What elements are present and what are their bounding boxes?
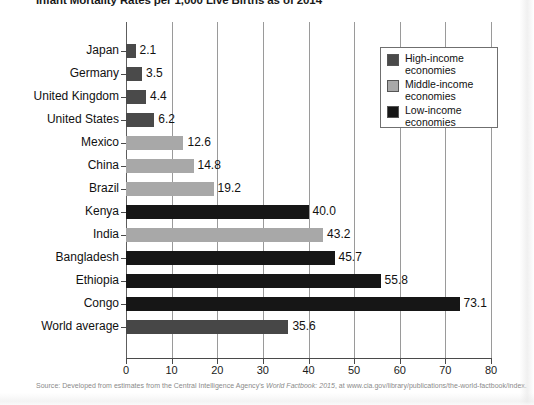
category-label-united-kingdom: United Kingdom — [34, 89, 119, 103]
legend-swatch-high-income-icon — [387, 54, 399, 66]
bar-row: China14.8 — [0, 155, 534, 178]
infant-mortality-bar-chart-figure: Infant Mortality Rates per 1,000 Live Bi… — [0, 0, 534, 405]
legend-swatch-middle-income-icon — [387, 80, 399, 92]
legend: High-income economies Middle-income econ… — [380, 47, 498, 128]
bar-value-japan: 2.1 — [140, 43, 157, 57]
category-label-mexico: Mexico — [81, 135, 119, 149]
source-note: Source: Developed from estimates from th… — [36, 382, 527, 389]
page-title: Infant Mortality Rates per 1,000 Live Bi… — [36, 0, 322, 6]
bar-brazil — [126, 182, 214, 196]
bar-row: Mexico12.6 — [0, 132, 534, 155]
category-label-bangladesh: Bangladesh — [56, 250, 119, 264]
bar-united-states — [126, 113, 154, 127]
bar-row: World average35.6 — [0, 316, 534, 339]
category-label-brazil: Brazil — [89, 181, 119, 195]
x-tick-label-60: 60 — [380, 364, 420, 376]
bar-value-congo: 73.1 — [464, 296, 487, 310]
bar-value-mexico: 12.6 — [187, 135, 210, 149]
legend-label-line2: economies — [405, 116, 456, 128]
legend-label-line2: economies — [405, 64, 456, 76]
category-label-ethiopia: Ethiopia — [76, 273, 119, 287]
bar-value-india: 43.2 — [327, 227, 350, 241]
legend-item: High-income economies — [387, 53, 492, 76]
bar-value-brazil: 19.2 — [218, 181, 241, 195]
category-label-kenya: Kenya — [85, 204, 119, 218]
bar-value-world-average: 35.6 — [292, 319, 315, 333]
category-label-japan: Japan — [86, 43, 119, 57]
legend-swatch-low-income-icon — [387, 106, 399, 118]
legend-label-high-income: High-income economies — [405, 53, 464, 76]
bar-bangladesh — [126, 251, 335, 265]
category-label-germany: Germany — [70, 66, 119, 80]
bar-row: Bangladesh45.7 — [0, 247, 534, 270]
bar-value-ethiopia: 55.8 — [385, 273, 408, 287]
bar-value-united-kingdom: 4.4 — [150, 89, 167, 103]
bar-value-germany: 3.5 — [146, 66, 163, 80]
x-tick-label-40: 40 — [289, 364, 329, 376]
legend-label-middle-income: Middle-income economies — [405, 79, 473, 102]
legend-label-line1: High-income — [405, 52, 464, 64]
bar-kenya — [126, 205, 309, 219]
category-label-india: India — [93, 227, 119, 241]
category-label-united-states: United States — [47, 112, 119, 126]
x-tick-label-0: 0 — [106, 364, 146, 376]
bar-row: India43.2 — [0, 224, 534, 247]
category-label-world-average: World average — [41, 319, 119, 333]
bar-world-average — [126, 320, 288, 334]
source-suffix: , at www.cia.gov/library/publications/th… — [335, 382, 527, 389]
bar-value-kenya: 40.0 — [313, 204, 336, 218]
bar-row: Congo73.1 — [0, 293, 534, 316]
bar-congo — [126, 297, 460, 311]
bar-row: Brazil19.2 — [0, 178, 534, 201]
x-tick-label-70: 70 — [425, 364, 465, 376]
bar-row: Kenya40.0 — [0, 201, 534, 224]
x-tick-label-30: 30 — [243, 364, 283, 376]
bar-china — [126, 159, 194, 173]
bar-value-bangladesh: 45.7 — [339, 250, 362, 264]
bar-row: Ethiopia55.8 — [0, 270, 534, 293]
legend-label-low-income: Low-income economies — [405, 105, 462, 128]
bar-japan — [126, 44, 136, 58]
bar-value-united-states: 6.2 — [158, 112, 175, 126]
x-tick-label-10: 10 — [152, 364, 192, 376]
category-label-congo: Congo — [84, 296, 119, 310]
source-publication: World Factbook: 2015 — [266, 382, 335, 389]
x-tick-label-50: 50 — [334, 364, 374, 376]
bar-germany — [126, 67, 142, 81]
legend-item: Low-income economies — [387, 105, 492, 128]
bar-india — [126, 228, 323, 242]
bar-united-kingdom — [126, 90, 146, 104]
category-label-china: China — [88, 158, 119, 172]
legend-label-line2: economies — [405, 90, 456, 102]
bar-value-china: 14.8 — [198, 158, 221, 172]
bar-ethiopia — [126, 274, 381, 288]
legend-label-line1: Middle-income — [405, 78, 473, 90]
x-tick-label-20: 20 — [197, 364, 237, 376]
page-bottom-edge-shading — [0, 393, 534, 405]
legend-item: Middle-income economies — [387, 79, 492, 102]
bar-mexico — [126, 136, 183, 150]
x-tick-label-80: 80 — [471, 364, 511, 376]
source-prefix: Source: Developed from estimates from th… — [36, 382, 266, 389]
legend-label-line1: Low-income — [405, 104, 462, 116]
